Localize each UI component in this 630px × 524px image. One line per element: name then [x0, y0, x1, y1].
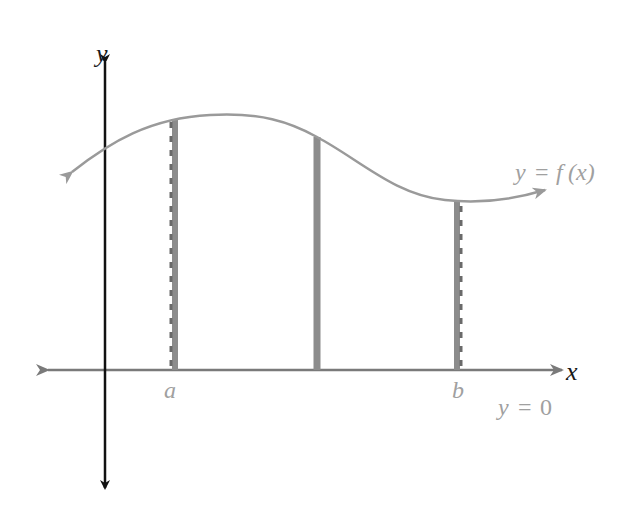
svg-text:f: f [556, 159, 566, 185]
svg-text:y: y [496, 394, 509, 420]
y-axis-label: y [93, 39, 108, 68]
svg-text:(x): (x) [568, 159, 595, 185]
x-axis-label: x [565, 357, 578, 386]
svg-text:0: 0 [540, 394, 552, 420]
svg-text:=: = [535, 159, 549, 185]
bar-at-b [457, 202, 461, 370]
x-axis-equation-label: y = 0 [496, 394, 552, 420]
marker-b-label: b [452, 377, 464, 403]
svg-text:y: y [513, 159, 526, 185]
curve-label: y = f (x) [513, 159, 595, 185]
bar-at-a [171, 120, 175, 370]
svg-text:=: = [518, 394, 532, 420]
diagram-canvas: y x a b y = f (x) y = 0 [0, 0, 630, 524]
function-curve [72, 114, 545, 201]
marker-a-label: a [164, 377, 176, 403]
